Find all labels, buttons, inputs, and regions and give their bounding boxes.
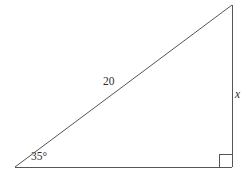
angle-label-35-degrees: 35°	[31, 151, 47, 163]
triangle-figure: 35° 20 x	[0, 0, 252, 178]
triangle-hypotenuse-line	[15, 5, 232, 167]
opposite-side-variable-label: x	[235, 89, 240, 101]
hypotenuse-length-label: 20	[103, 76, 115, 88]
right-angle-marker-icon	[219, 154, 232, 167]
